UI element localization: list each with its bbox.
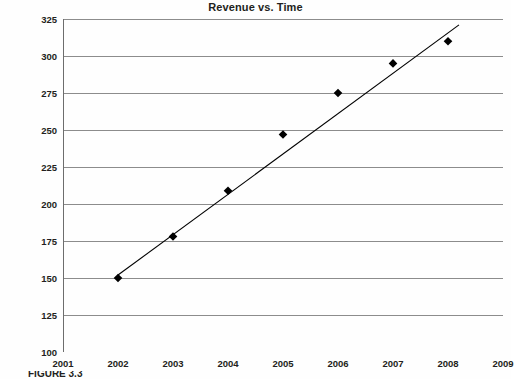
x-axis-tick-label: 2002 — [95, 358, 141, 369]
x-axis-tick-label: 2006 — [315, 358, 361, 369]
caption-label: FIGURE 3.3 — [28, 371, 82, 379]
plot-canvas — [63, 19, 503, 352]
y-axis-tick-label: 275 — [21, 88, 57, 99]
trendline — [118, 25, 459, 275]
data-point-marker[interactable] — [224, 186, 233, 195]
x-axis-tick-label: 2004 — [205, 358, 251, 369]
x-axis-tick-label: 2008 — [425, 358, 471, 369]
figure-caption: FIGURE 3.3 — [0, 371, 511, 379]
y-axis-tick-label: 250 — [21, 125, 57, 136]
y-axis-tick-label: 225 — [21, 162, 57, 173]
trendline-path — [118, 25, 459, 275]
data-point-marker[interactable] — [279, 130, 288, 139]
data-point-marker[interactable] — [169, 232, 178, 241]
chart-title: Revenue vs. Time — [0, 1, 511, 13]
data-point-marker[interactable] — [444, 37, 453, 46]
x-axis-tick-label: 2001 — [40, 358, 86, 369]
data-point-group — [114, 37, 453, 282]
y-axis-tick-label: 125 — [21, 310, 57, 321]
y-axis-tick-label: 200 — [21, 199, 57, 210]
gridline-group — [63, 20, 503, 353]
data-point-marker[interactable] — [334, 89, 343, 98]
y-axis-tick-label: 300 — [21, 51, 57, 62]
data-point-marker[interactable] — [114, 274, 123, 283]
x-axis-tick-label: 2009 — [480, 358, 518, 369]
y-axis-tick-label: 175 — [21, 236, 57, 247]
x-axis-tick-label: 2003 — [150, 358, 196, 369]
x-axis-tick-label: 2007 — [370, 358, 416, 369]
y-axis-tick-label: 325 — [21, 14, 57, 25]
plot-area — [63, 19, 503, 352]
x-axis-tick-label: 2005 — [260, 358, 306, 369]
y-axis-tick-label: 150 — [21, 273, 57, 284]
y-axis-tick-label: 100 — [21, 347, 57, 358]
data-point-marker[interactable] — [389, 59, 398, 68]
